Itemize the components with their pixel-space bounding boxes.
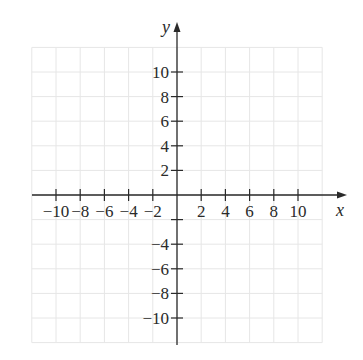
x-tick-label: −10 (43, 202, 70, 221)
y-tick-label: 2 (161, 161, 170, 180)
x-tick-label: 2 (197, 202, 206, 221)
y-tick-label: 8 (161, 88, 170, 107)
y-tick-label: 10 (152, 63, 169, 82)
axes (32, 22, 347, 345)
x-tick-label: −8 (71, 202, 89, 221)
x-tick-label: 10 (290, 202, 307, 221)
y-axis-arrow-icon (174, 22, 181, 32)
y-tick-label: 4 (161, 137, 170, 156)
x-tick-label: −4 (120, 202, 139, 221)
y-tick-label: −4 (151, 235, 170, 254)
x-axis-arrow-icon (337, 192, 347, 199)
x-tick-label: −6 (95, 202, 113, 221)
x-tick-label: 4 (221, 202, 230, 221)
coordinate-plane: −10−8−6−4−2246810108642−4−6−8−10 x y (0, 0, 363, 360)
y-tick-label: −10 (142, 309, 169, 328)
x-axis-label: x (335, 200, 344, 220)
y-tick-label: −6 (151, 260, 169, 279)
y-tick-label: 6 (161, 112, 170, 131)
x-tick-label: 6 (245, 202, 254, 221)
y-axis-label: y (160, 17, 170, 37)
y-tick-label: −8 (151, 284, 169, 303)
x-tick-label: 8 (270, 202, 279, 221)
x-tick-label: −2 (144, 202, 162, 221)
